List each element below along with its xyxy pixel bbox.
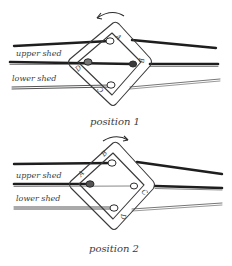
- hole-label-left: D: [73, 64, 84, 75]
- hole-left: [86, 181, 94, 187]
- caption-position-2: position 2: [89, 243, 139, 254]
- lower-shed-label: lower shed: [12, 74, 56, 83]
- lower-shed-label: lower shed: [16, 194, 60, 203]
- hole-label-right: B: [137, 57, 145, 63]
- hole-left: [84, 59, 92, 65]
- hole-label-left: A: [76, 169, 86, 179]
- hole-top: [106, 38, 114, 44]
- hole-bottom: [110, 205, 118, 211]
- hole-label-bottom: D: [119, 213, 127, 220]
- panel-position-1: A B C D upper shed lower shed position 1: [10, 12, 220, 127]
- rotate-cw-arrow-icon: [103, 136, 128, 141]
- upper-shed-label: upper shed: [16, 49, 62, 58]
- hole-bottom: [107, 82, 115, 88]
- upper-shed-label: upper shed: [16, 171, 62, 180]
- panel-position-2: B C D A upper shed lower shed position 2: [14, 136, 222, 254]
- rotate-ccw-arrow-icon: [97, 12, 124, 19]
- weaving-diagram: A B C D upper shed lower shed position 1: [0, 0, 232, 266]
- hole-label-right: C: [140, 188, 150, 198]
- threads-position-2: [14, 162, 222, 211]
- caption-position-1: position 1: [90, 116, 140, 127]
- hole-label-bottom: C: [96, 84, 106, 94]
- hole-right: [129, 61, 136, 67]
- hole-top: [108, 160, 116, 166]
- hole-right: [130, 183, 137, 189]
- holes-position-2: [86, 160, 138, 211]
